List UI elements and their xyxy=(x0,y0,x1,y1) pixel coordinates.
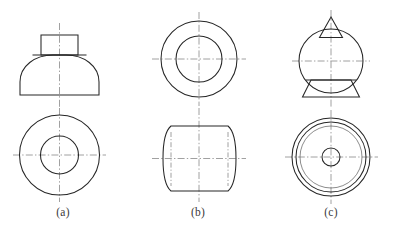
technical-drawing-svg xyxy=(0,0,400,234)
caption-a: (a) xyxy=(43,206,83,218)
bottom-view-c xyxy=(285,110,378,204)
top-view-b xyxy=(152,108,246,202)
front-view-c xyxy=(292,10,370,108)
part-c-group xyxy=(285,10,378,204)
part-b-group xyxy=(152,12,246,202)
caption-b: (b) xyxy=(178,206,218,218)
top-view-a-bore-circle xyxy=(41,136,79,174)
caption-c: (c) xyxy=(311,206,351,218)
top-view-a xyxy=(13,108,106,202)
part-a-group xyxy=(13,23,106,202)
front-view-a xyxy=(20,23,99,108)
front-view-b xyxy=(152,12,246,106)
top-view-b-barrel-outline xyxy=(163,126,236,191)
drawing-sheet: (a) (b) (c) xyxy=(0,0,400,234)
